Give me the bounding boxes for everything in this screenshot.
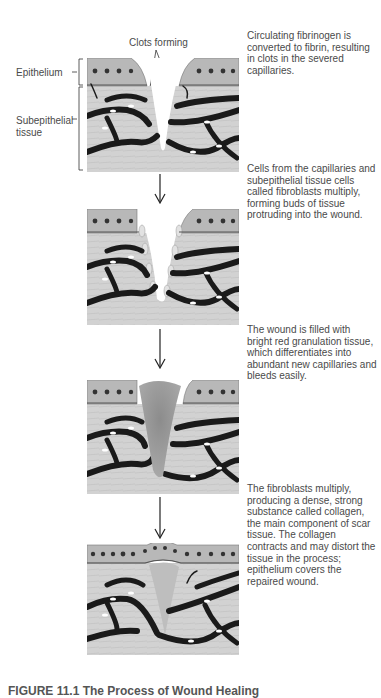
subepithelial-bracket [70, 86, 86, 172]
epithelium-bracket [70, 58, 86, 86]
stage-2-description: Cells from the capillaries and subepithe… [247, 163, 377, 221]
stage-1-description: Circulating fibrinogen is converted to f… [247, 30, 377, 76]
stage-3-panel [87, 380, 239, 494]
stage-4-panel [87, 543, 239, 655]
figure-caption: FIGURE 11.1 The Process of Wound Healing [8, 684, 259, 698]
subepithelial-label: Subepithelial tissue [16, 115, 73, 138]
subepithelial-label-line1: Subepithelial [16, 115, 73, 127]
stage-3-description: The wound is filled with bright red gran… [247, 324, 377, 382]
arrow-3-down-icon [154, 497, 166, 539]
arrow-1-down-icon [154, 174, 166, 204]
stage-4-description: The fibroblasts multiply, producing a de… [247, 483, 377, 587]
stage-2-panel [87, 209, 239, 325]
clots-forming-label: Clots forming [129, 37, 188, 49]
subepithelial-label-line2: tissue [16, 127, 73, 139]
arrow-2-down-icon [154, 329, 166, 369]
epithelium-label: Epithelium [16, 67, 63, 79]
stage-1-panel [87, 58, 239, 172]
